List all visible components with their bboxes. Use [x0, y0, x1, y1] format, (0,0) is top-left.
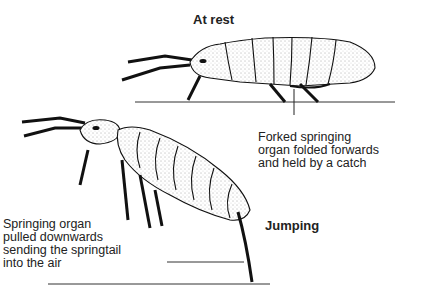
at-rest-title: At rest [193, 12, 234, 27]
jump-annotation: Springing organ pulled downwards sending… [3, 218, 121, 270]
resting-springtail [122, 37, 395, 115]
rest-annotation: Forked springing organ folded forwards a… [258, 131, 379, 170]
jump-annotation-line: into the air [3, 257, 121, 270]
rest-annotation-line: and held by a catch [258, 157, 379, 170]
jumping-title: Jumping [265, 218, 319, 233]
